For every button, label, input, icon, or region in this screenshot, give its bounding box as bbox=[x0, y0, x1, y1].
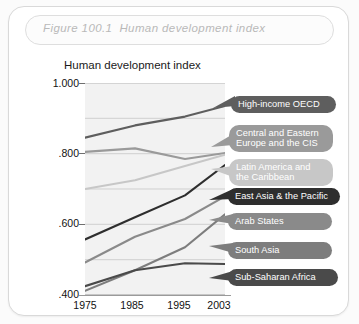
figure-number: Figure 100.1 bbox=[43, 22, 112, 34]
y-tick-label-1000: 1.000 bbox=[33, 77, 79, 89]
x-axis-line bbox=[79, 295, 231, 296]
line-high-income-oecd bbox=[85, 106, 225, 138]
x-tick-label-1995: 1995 bbox=[159, 299, 199, 311]
figure-card: Figure 100.1Human development index Huma… bbox=[8, 6, 349, 316]
legend-pill-central-eastern-europe-cis[interactable]: Central and Eastern Europe and the CIS bbox=[229, 125, 333, 152]
legend-label-high-income-oecd: High-income OECD bbox=[238, 100, 320, 110]
legend-pill-latin-america-caribbean[interactable]: Latin America and the Caribbean bbox=[229, 159, 333, 186]
legend-pill-arab-states[interactable]: Arab States bbox=[228, 213, 332, 230]
screenshot-root: Figure 100.1Human development index Huma… bbox=[0, 0, 359, 324]
figure-title: Figure 100.1Human development index bbox=[43, 22, 265, 34]
legend-label-arab-states: Arab States bbox=[235, 217, 284, 227]
x-tick-label-2003: 2003 bbox=[199, 299, 239, 311]
legend-label-south-asia: South Asia bbox=[235, 246, 279, 256]
x-tick-label-1985: 1985 bbox=[112, 299, 152, 311]
x-tick-label-1975: 1975 bbox=[65, 299, 105, 311]
line-east-asia-pacific bbox=[85, 165, 225, 240]
y-tick-label-800: .800 bbox=[33, 147, 79, 159]
legend-label-east-asia-pacific: East Asia & the Pacific bbox=[235, 192, 328, 202]
series-lines bbox=[85, 106, 225, 291]
y-tick-label-600: .600 bbox=[33, 217, 79, 229]
legend-label-sub-saharan-africa: Sub-Saharan Africa bbox=[235, 273, 316, 283]
legend-pill-sub-saharan-africa[interactable]: Sub-Saharan Africa bbox=[228, 269, 338, 286]
figure-caption: Human development index bbox=[119, 22, 265, 34]
line-latin-america-caribbean bbox=[85, 155, 225, 189]
plot-area bbox=[85, 83, 225, 295]
legend-pill-east-asia-pacific[interactable]: East Asia & the Pacific bbox=[228, 188, 340, 205]
chart-svg bbox=[85, 83, 225, 295]
legend-pill-south-asia[interactable]: South Asia bbox=[228, 242, 332, 259]
legend-pill-high-income-oecd[interactable]: High-income OECD bbox=[231, 96, 336, 113]
legend-label-latin-line2: the Caribbean bbox=[236, 173, 294, 183]
chart-title: Human development index bbox=[64, 59, 201, 71]
legend-label-cis-line2: Europe and the CIS bbox=[236, 139, 318, 149]
